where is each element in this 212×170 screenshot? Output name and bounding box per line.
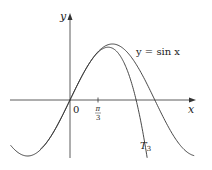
sin-curve-label: y = sin x <box>135 46 180 57</box>
tick-label-denominator: 3 <box>96 114 100 122</box>
x-axis-arrow-icon <box>189 98 196 103</box>
t3-curve <box>40 47 147 158</box>
y-axis-arrow-icon <box>68 13 73 20</box>
x-axis-label: x <box>188 103 195 116</box>
t3-label: T3 <box>140 140 151 153</box>
chart-figure: y x 0 π 3 y = sin x T3 <box>0 0 212 170</box>
origin-label: 0 <box>73 104 79 115</box>
chart-svg: y x 0 π 3 y = sin x T3 <box>0 0 212 170</box>
y-axis-label: y <box>59 10 67 23</box>
tick-label-numerator: π <box>95 105 101 113</box>
